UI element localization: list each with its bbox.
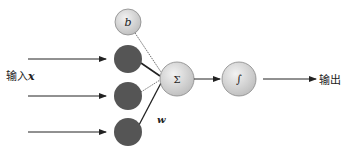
input-label: 输入x <box>6 67 35 83</box>
input-node-2 <box>114 82 142 110</box>
input-node-3 <box>114 118 142 146</box>
input-node-1 <box>114 45 142 73</box>
weight-label: w <box>157 114 166 125</box>
neuron-diagram: b Σ ∫ <box>0 0 353 159</box>
sum-label: Σ <box>173 74 180 85</box>
bias-label: b <box>124 16 131 29</box>
activation-label: ∫ <box>236 73 242 86</box>
input-label-text: 输入 <box>6 70 28 83</box>
input-variable: x <box>28 70 35 83</box>
output-label: 输出 <box>319 71 341 87</box>
weight-edge-1 <box>141 63 160 76</box>
